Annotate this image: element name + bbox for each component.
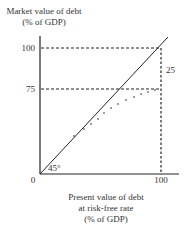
angle-annotation: 45° bbox=[48, 163, 61, 173]
x-tick-100: 100 bbox=[154, 175, 168, 185]
y-tick-75: 75 bbox=[26, 84, 36, 94]
x-axis-title-line3: (% of GDP) bbox=[84, 214, 128, 224]
x-axis-title-line1: Present value of debt bbox=[68, 192, 144, 202]
market-value-dotted-curve bbox=[73, 89, 156, 137]
origin-label: 0 bbox=[31, 175, 36, 185]
x-axis-title-line2: at risk-free rate bbox=[79, 203, 134, 213]
gap-annotation: 25 bbox=[166, 65, 176, 75]
y-axis-title-line2: (% of GDP) bbox=[22, 17, 66, 27]
y-axis-title-line1: Market value of debt bbox=[6, 6, 82, 16]
y-tick-100: 100 bbox=[22, 43, 36, 53]
debt-value-chart: Market value of debt (% of GDP) 100 75 0… bbox=[0, 0, 191, 236]
forty-five-degree-line bbox=[40, 37, 168, 174]
